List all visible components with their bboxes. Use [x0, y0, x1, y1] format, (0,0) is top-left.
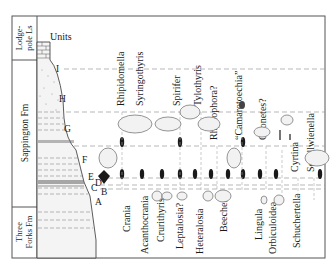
fossil-syringothyris-icon	[118, 115, 152, 133]
taxon-label-orbiculoidea: Orbiculoidea	[267, 201, 278, 254]
lithologic-column	[37, 42, 96, 258]
fossil-schuchertella-icon	[305, 150, 329, 166]
svg-text:Forks Fm: Forks Fm	[24, 215, 34, 248]
range-tick	[241, 169, 245, 179]
fossil-cyrtina-icon	[281, 115, 293, 125]
fossil-leptalosia-icon	[203, 191, 213, 201]
taxon-label-tylothyris: Tylothyris	[192, 65, 203, 106]
fossil-orbiculoidea-icon	[274, 195, 284, 205]
unit-label-G: G	[64, 124, 71, 134]
range-tick	[193, 169, 197, 179]
fossil-rhipidomella-icon	[99, 148, 117, 168]
taxon-label-spirifer: Spirifer	[171, 75, 182, 106]
taxon-label-crania: Crania	[121, 205, 132, 232]
fossil-crania-icon	[152, 191, 162, 201]
taxon-label-acanthocrania: Acanthocrania	[139, 195, 150, 254]
diagram-canvas: Lodge- pole Ls Sappington Fm Three Forks…	[0, 0, 335, 271]
range-tick	[241, 137, 245, 147]
fossil-rhytiophora-icon	[198, 117, 220, 131]
range-tick	[209, 169, 213, 179]
taxon-label-crurithyris: Crurithyris	[155, 198, 166, 242]
taxon-label-syringothyris: Syringothyris	[134, 51, 145, 106]
column-outline	[37, 42, 96, 258]
formation-label-threeforks: Three Forks Fm	[14, 215, 34, 248]
svg-text:Three: Three	[14, 222, 24, 242]
range-tick	[160, 169, 164, 179]
unit-label-B: B	[101, 187, 107, 197]
range-tick	[140, 169, 144, 179]
unit-label-H: H	[59, 94, 66, 104]
taxon-label-leptalosia: Leptalosia?	[174, 202, 185, 249]
taxon-label-heteralosia: Heteralosia	[194, 208, 205, 254]
fossil-acanthocrania-icon	[162, 192, 172, 200]
formation-label-sappington: Sappington Fm	[20, 103, 30, 162]
fossil-crurithyris-icon	[177, 192, 187, 200]
svg-text:pole Ls: pole Ls	[24, 25, 34, 50]
range-tick	[274, 169, 278, 179]
unit-label-I: I	[56, 64, 59, 74]
range-tick	[258, 169, 262, 179]
svg-text:Lodge-: Lodge-	[14, 26, 24, 51]
taxon-label-rhipidomella: Rhipidomella	[115, 51, 126, 106]
fossil-chonetes-icon	[254, 127, 270, 137]
unit-label-A: A	[95, 197, 102, 207]
range-tick	[226, 169, 230, 179]
stratigraphic-range-diagram: Lodge- pole Ls Sappington Fm Three Forks…	[0, 0, 335, 271]
taxon-label-lingula: Lingula	[253, 208, 264, 240]
fossil-beecheria-icon	[227, 148, 241, 168]
unit-label-C: C	[91, 183, 97, 193]
range-tick	[318, 169, 322, 179]
taxon-label-rhytiophora: Rhytiophora?	[208, 85, 219, 140]
units-heading: Units	[50, 31, 72, 42]
unit-label-F: F	[82, 155, 87, 165]
fossil-spirifer-icon	[155, 117, 181, 131]
taxon-label-cyrtina: Cyrtina	[289, 141, 300, 172]
range-tick	[239, 101, 245, 109]
fossil-tylothyris-icon	[180, 105, 200, 119]
fossil-lingula-icon	[261, 196, 267, 204]
formation-label-lodgepole: Lodge- pole Ls	[14, 25, 34, 50]
svg-text:Sappington Fm: Sappington Fm	[20, 103, 30, 162]
fossil-heteralosia-icon	[215, 190, 231, 202]
taxon-label-schuchertella: Schuchertella	[291, 193, 302, 248]
unit-label-E: E	[88, 172, 94, 182]
